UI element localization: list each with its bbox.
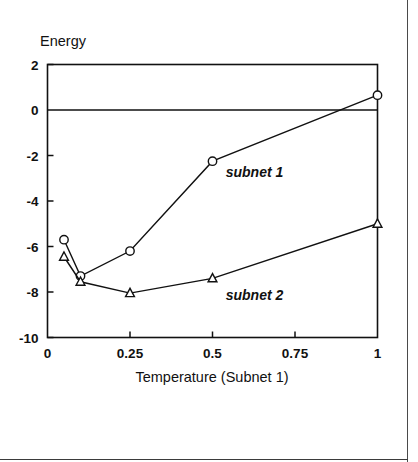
series-inline-label: subnet 1	[226, 164, 284, 180]
y-tick-label: -4	[26, 194, 38, 209]
y-tick-label: 2	[31, 58, 39, 73]
plot-area-border	[48, 65, 378, 338]
y-axis-tick-marks	[48, 65, 54, 338]
series-inline-label: subnet 2	[226, 287, 284, 303]
energy-vs-temperature-chart: 20-2-4-6-8-10 00.250.50.751 subnet 1subn…	[0, 0, 418, 462]
data-series-layer	[60, 91, 382, 297]
series-subnet-1	[60, 91, 382, 280]
y-axis-title: Energy	[40, 33, 87, 49]
plot-frame	[48, 65, 378, 338]
x-axis-tick-labels: 00.250.50.751	[44, 346, 382, 361]
series-line	[64, 95, 378, 276]
y-tick-label: -10	[19, 331, 39, 346]
x-tick-label: 0	[44, 346, 52, 361]
data-point-marker	[373, 91, 381, 99]
series-subnet-2	[60, 219, 382, 297]
y-tick-label: -8	[26, 285, 38, 300]
x-tick-label: 0.25	[117, 346, 144, 361]
data-point-marker	[208, 157, 216, 165]
series-annotation-layer: subnet 1subnet 2	[226, 164, 284, 303]
series-line	[64, 224, 378, 293]
x-axis-tick-marks	[130, 332, 295, 338]
x-tick-label: 1	[374, 346, 382, 361]
y-tick-label: -6	[26, 240, 38, 255]
data-point-marker	[60, 252, 69, 260]
figure-page: 20-2-4-6-8-10 00.250.50.751 subnet 1subn…	[0, 0, 418, 462]
x-tick-label: 0.5	[203, 346, 222, 361]
data-point-marker	[60, 235, 68, 243]
y-tick-label: -2	[26, 149, 38, 164]
data-point-marker	[373, 219, 382, 227]
x-tick-label: 0.75	[282, 346, 309, 361]
data-point-marker	[126, 247, 134, 255]
y-tick-label: 0	[31, 103, 39, 118]
x-axis-title: Temperature (Subnet 1)	[135, 369, 288, 385]
y-axis-tick-labels: 20-2-4-6-8-10	[19, 58, 39, 346]
